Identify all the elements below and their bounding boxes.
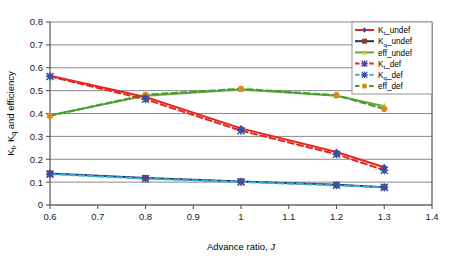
y-tick-label: 0.5 [30,85,43,96]
data-point-marker [238,86,244,92]
data-point-marker [46,170,54,178]
data-point-marker [362,83,367,88]
data-point-marker [380,166,388,174]
legend-label: Kt_undef [378,26,411,36]
data-point-marker [361,60,368,67]
data-point-marker [141,175,149,183]
y-tick-label: 0.2 [30,154,43,165]
data-point-marker [47,113,53,119]
x-tick-label: 1.2 [330,211,343,222]
data-point-marker [361,71,368,78]
legend-label: Kt_def [378,60,402,70]
y-axis-ticks: 00.10.20.30.40.50.60.70.8 [30,16,50,210]
y-tick-label: 0.1 [30,177,43,188]
x-axis-title: Advance ratio, J [207,241,275,252]
y-axis-title: Kt, Kq and efficiency [5,71,18,156]
chart-figure: 00.10.20.30.40.50.60.70.80.60.70.80.911.… [0,0,456,256]
data-point-marker [362,39,367,44]
data-point-marker [333,92,339,98]
y-tick-label: 0.6 [30,62,43,73]
x-tick-label: 0.7 [91,211,104,222]
y-tick-label: 0.4 [30,108,43,119]
data-point-marker [46,72,54,80]
y-tick-label: 0.8 [30,16,43,27]
x-tick-label: 1 [238,211,243,222]
x-tick-label: 1.4 [425,211,438,222]
x-tick-label: 1.1 [282,211,295,222]
data-point-marker [332,150,340,158]
legend-label: eff_undef [378,49,413,58]
y-tick-label: 0.3 [30,131,43,142]
x-axis-ticks: 0.60.70.80.911.11.21.31.4 [43,205,438,222]
x-tick-label: 0.6 [43,211,56,222]
data-point-marker [237,178,245,186]
legend-label: Kq_undef [378,37,413,47]
y-tick-label: 0.7 [30,39,43,50]
x-tick-label: 0.8 [139,211,152,222]
legend: Kt_undefKq_undefeff_undefKt_defKq_defeff… [352,22,432,94]
data-point-marker [381,106,387,112]
data-point-marker [237,127,245,135]
legend-label: Kq_def [378,71,404,81]
y-tick-label: 0 [38,199,43,210]
x-tick-label: 1.3 [378,211,391,222]
chart-canvas: 00.10.20.30.40.50.60.70.80.60.70.80.911.… [0,0,456,256]
data-point-marker [332,181,340,189]
legend-label: eff_def [378,82,404,91]
x-tick-label: 0.9 [187,211,200,222]
data-point-marker [141,95,149,103]
data-point-marker [380,183,388,191]
